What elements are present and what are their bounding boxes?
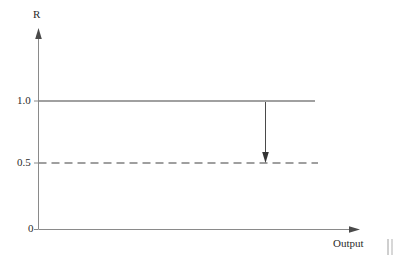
downward-shift-arrow-head bbox=[262, 152, 269, 163]
x-axis bbox=[39, 226, 361, 233]
y-axis-title: R bbox=[33, 9, 40, 20]
y-axis bbox=[35, 28, 42, 229]
y-tick-label-one: 1.0 bbox=[17, 95, 31, 106]
scan-edge-artifact bbox=[387, 239, 397, 255]
downward-shift-arrow bbox=[262, 102, 269, 163]
x-axis-title: Output bbox=[333, 238, 364, 249]
chart-canvas: R Output 1.0 0.5 0 bbox=[0, 0, 397, 263]
shift-down-line-chart bbox=[0, 0, 397, 263]
y-axis-arrowhead bbox=[35, 28, 42, 39]
x-axis-arrowhead bbox=[349, 226, 360, 233]
y-tick-label-half: 0.5 bbox=[17, 157, 31, 168]
y-tick-label-zero: 0 bbox=[28, 223, 34, 234]
